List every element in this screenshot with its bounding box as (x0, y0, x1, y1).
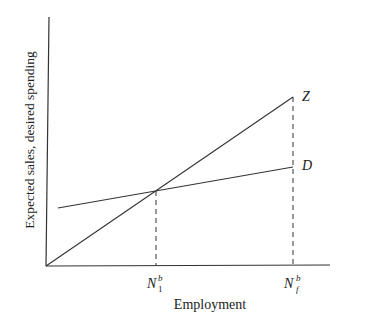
svg-text:N: N (146, 276, 157, 291)
svg-text:N: N (283, 276, 294, 291)
y-axis-label: Expected sales, desired spending (22, 51, 37, 229)
x-axis (46, 265, 330, 266)
n1-tick-label: N 1 b (146, 273, 163, 294)
svg-text:b: b (296, 273, 301, 283)
diagram-canvas: Z D N 1 b N f b Employment Expected sale… (0, 0, 371, 325)
svg-text:f: f (296, 284, 300, 294)
y-axis (46, 17, 49, 266)
z-line-label: Z (302, 89, 310, 104)
x-axis-label: Employment (174, 297, 246, 312)
svg-text:1: 1 (158, 284, 163, 294)
d-line (58, 167, 293, 208)
z-line (46, 97, 293, 266)
d-line-label: D (301, 158, 312, 173)
nf-tick-label: N f b (283, 273, 301, 294)
svg-text:b: b (158, 273, 163, 283)
